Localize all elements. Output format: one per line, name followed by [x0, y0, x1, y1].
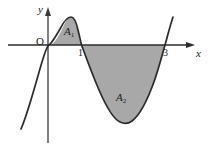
region-a2-subscript: 2	[123, 97, 127, 105]
region-label-a2: A2	[116, 92, 126, 103]
y-axis-arrowhead	[45, 7, 51, 16]
y-axis-label: y	[38, 4, 43, 15]
x-axis-arrowhead	[186, 42, 195, 48]
origin-label: O	[36, 36, 44, 47]
region-a2-letter: A	[116, 91, 123, 103]
region-label-a1: A1	[64, 26, 74, 37]
tick-label-1: 1	[78, 48, 83, 58]
region-a1-letter: A	[64, 25, 71, 37]
figure-canvas: y x O 1 3 A1 A2	[0, 0, 211, 149]
x-axis-label: x	[196, 48, 201, 59]
region-a1-subscript: 1	[71, 31, 75, 39]
tick-label-3: 3	[163, 48, 168, 58]
graph-svg	[0, 0, 211, 149]
